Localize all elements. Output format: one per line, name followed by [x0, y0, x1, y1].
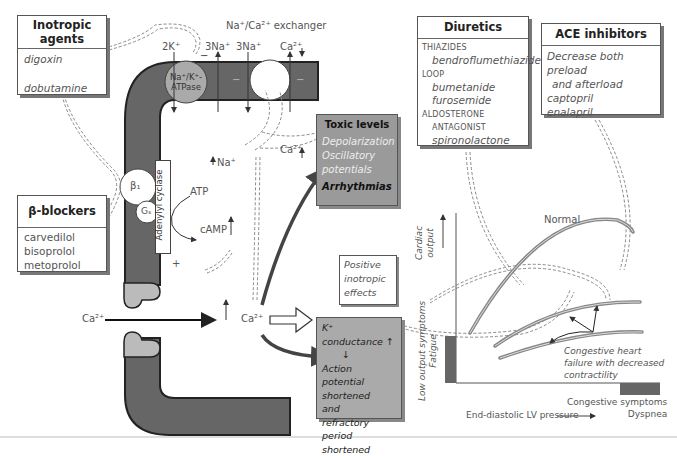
positive-line-3: effects — [344, 286, 392, 300]
ca-channel-in-label: Ca²⁺ — [82, 313, 104, 324]
down-arrow-icon: ↓ — [322, 348, 396, 362]
k-line-4: refractory period — [322, 416, 396, 443]
ace-inhibitors-box: ACE inhibitors Decrease both preload and… — [541, 23, 661, 115]
pump-label-1: Na⁺/K⁺- — [170, 72, 202, 82]
k-line-1: Action potential — [322, 362, 396, 389]
chf-line-1: Congestive heart — [564, 345, 664, 357]
beta-blockers-box: β-blockers carvedilol bisoprolol metopro… — [17, 195, 107, 272]
diuretics-title: Diuretics — [418, 17, 528, 39]
chf-label: Congestive heart failure with decreased … — [564, 345, 664, 381]
calcium-channel-lower — [124, 332, 160, 357]
chf-line-3: contractility — [564, 369, 664, 381]
inotropic-title-1: Inotropic — [20, 18, 104, 32]
toxic-levels-box: Toxic levels Depolarization Oscillatory … — [316, 114, 398, 206]
pump-label-2: ATPase — [170, 82, 202, 92]
drug-dobutamine: dobutamine — [24, 81, 100, 96]
cardiac-output-label: Cardiac output — [414, 226, 436, 260]
diuretics-box: Diuretics THIAZIDES bendroflumethiazide … — [417, 16, 529, 146]
toxic-line-2: Oscillatory — [322, 149, 392, 163]
minus-sign-1: − — [200, 50, 208, 61]
camp-label: cAMP — [200, 224, 227, 235]
drug-metoprolol: metoprolol — [24, 258, 100, 272]
subcategory-antagonist: ANTAGONIST — [422, 121, 524, 134]
congestive-2: Dyspnea — [567, 408, 667, 420]
minus-sign-2: − — [232, 74, 240, 85]
hollow-arrow — [270, 308, 312, 332]
ion-2k-label: 2K⁺ — [162, 41, 180, 52]
inotropic-agents-box: Inotropic agents digoxin dobutamine — [17, 15, 107, 95]
low-output-1: Low output symptoms — [417, 301, 428, 401]
inotropic-title-2: agents — [20, 32, 104, 46]
drug-spironolactone: spironolactone — [422, 134, 524, 148]
x-axis-label: End-diastolic LV pressure — [466, 410, 579, 420]
y-label-2: output — [425, 226, 436, 260]
chf-line-2: failure with decreased — [564, 357, 664, 369]
k-conductance-title: K⁺ conductance ↑ — [322, 321, 396, 348]
drug-digoxin: digoxin — [24, 52, 100, 67]
congestive-symptoms-label: Congestive symptoms Dyspnea — [567, 396, 667, 420]
ion-ca-in-label: Ca²⁺ — [280, 144, 302, 155]
plus-sign: + — [172, 258, 180, 269]
congestive-1: Congestive symptoms — [567, 396, 667, 408]
drug-furosemide: furosemide — [422, 94, 524, 108]
normal-curve-label: Normal — [544, 214, 580, 225]
low-output-2: Fatigue — [428, 301, 439, 401]
low-output-label: Low output symptoms Fatigue — [417, 301, 439, 401]
ion-3na-a-label: 3Na⁺ — [205, 41, 230, 52]
category-thiazides: THIAZIDES — [422, 41, 524, 54]
ace-title: ACE inhibitors — [542, 24, 660, 46]
ace-line-1: Decrease both preload — [547, 49, 655, 77]
category-loop: LOOP — [422, 68, 524, 81]
calcium-channel-upper — [124, 283, 160, 308]
ion-na-in-label: Na⁺ — [217, 157, 236, 168]
ion-3na-b-label: 3Na⁺ — [236, 41, 261, 52]
k-conductance-label: K⁺ conductance — [322, 322, 383, 347]
exchanger-label: Na⁺/Ca²⁺ exchanger — [226, 20, 326, 31]
ion-ca-out-label: Ca²⁺ — [280, 41, 302, 52]
drug-bisoprolol: bisoprolol — [24, 244, 100, 258]
toxic-title: Toxic levels — [322, 118, 392, 132]
positive-inotropic-box: Positive inotropic effects — [339, 255, 397, 305]
drug-captopril: captopril — [547, 91, 655, 105]
k-line-3: and — [322, 402, 396, 416]
ace-line-2: and afterload — [547, 77, 655, 91]
atp-label: ATP — [190, 186, 208, 197]
gs-label: Gₛ — [141, 206, 151, 216]
beta1-label: β₁ — [130, 180, 140, 191]
adenylyl-cyclase-label: Adenylyl cyclase — [154, 160, 164, 250]
drug-carvedilol: carvedilol — [24, 230, 100, 244]
toxic-line-1: Depolarization — [322, 135, 392, 149]
minus-sign-3: − — [296, 74, 304, 85]
ca-cytosol-label: Ca²⁺ — [241, 313, 263, 324]
k-line-2: shortened — [322, 389, 396, 403]
na-ca-exchanger — [250, 60, 290, 100]
drug-bumetanide: bumetanide — [422, 81, 524, 95]
category-aldosterone: ALDOSTERONE — [422, 108, 524, 121]
k-conductance-box: K⁺ conductance ↑ ↓ Action potential shor… — [316, 317, 402, 419]
pump-label: Na⁺/K⁺- ATPase — [170, 72, 202, 92]
toxic-line-3: potentials — [322, 163, 392, 177]
starling-graph — [443, 213, 660, 416]
positive-line-1: Positive — [344, 258, 392, 272]
drug-bendroflumethiazide: bendroflumethiazide — [422, 54, 524, 68]
y-label-1: Cardiac — [414, 226, 425, 260]
drug-enalapril: enalapril — [547, 105, 655, 119]
beta-blockers-title: β-blockers — [18, 196, 106, 228]
arrhythmias-label: Arrhythmias — [322, 180, 392, 194]
k-line-5: shortened — [322, 443, 396, 456]
positive-line-2: inotropic — [344, 272, 392, 286]
